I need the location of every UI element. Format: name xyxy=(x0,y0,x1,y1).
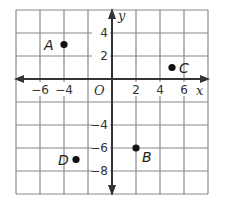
y-tick-label: 2 xyxy=(100,49,108,63)
point-label-c: C xyxy=(179,60,189,76)
point-label-a: A xyxy=(43,37,54,53)
y-tick-label: −4 xyxy=(90,118,108,132)
y-axis-label: y xyxy=(117,8,126,23)
coordinate-plane: −6−424642−4−6−8 ABCD O x y xyxy=(0,0,227,214)
y-tick-label: −8 xyxy=(90,164,108,178)
x-axis-label: x xyxy=(196,83,204,98)
x-tick-label: −4 xyxy=(55,83,73,97)
x-tick-label: 4 xyxy=(156,83,164,97)
x-tick-label: −6 xyxy=(31,83,49,97)
origin-label: O xyxy=(94,83,105,98)
x-tick-label: 6 xyxy=(180,83,188,97)
point-c xyxy=(168,64,175,71)
point-label-d: D xyxy=(58,152,69,168)
point-label-b: B xyxy=(142,149,152,165)
point-a xyxy=(60,41,67,48)
y-tick-label: −6 xyxy=(90,141,108,155)
point-d xyxy=(72,156,79,163)
y-tick-label: 4 xyxy=(100,26,108,40)
point-b xyxy=(132,144,139,151)
x-tick-label: 2 xyxy=(132,83,140,97)
